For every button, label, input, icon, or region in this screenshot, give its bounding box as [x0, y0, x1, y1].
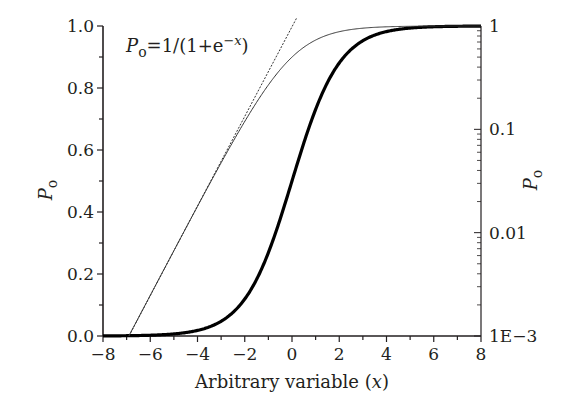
logistic-chart: −8−6−4−2024680.00.20.40.60.81.01E−30.010…: [0, 0, 567, 411]
x-axis-title: Arbitrary variable (x): [194, 371, 389, 392]
x-tick-label: 4: [381, 344, 392, 364]
y-right-tick-label: 0.1: [489, 119, 516, 139]
y-axis-title-right: Po: [520, 170, 545, 192]
y-right-tick-label: 1E−3: [489, 326, 537, 346]
y-left-tick-label: 0.2: [67, 264, 94, 284]
po-log-curve: [129, 26, 481, 336]
y-left-tick-label: 0.4: [67, 202, 94, 222]
asymptote-dotted-line: [129, 18, 297, 336]
y-left-tick-label: 0.0: [67, 326, 94, 346]
po-linear-curve: [103, 26, 481, 336]
formula-annotation: Po=1/(1+e−x): [125, 33, 249, 60]
x-tick-label: −2: [232, 344, 257, 364]
curves: [103, 18, 481, 336]
x-tick-label: 0: [287, 344, 298, 364]
labels: Po=1/(1+e−x) Arbitrary variable (x) Po P…: [35, 33, 545, 392]
x-tick-label: 8: [476, 344, 487, 364]
x-tick-label: −4: [185, 344, 210, 364]
x-tick-label: −8: [90, 344, 115, 364]
y-right-tick-label: 0.01: [489, 223, 527, 243]
y-left-tick-label: 0.6: [67, 140, 94, 160]
y-left-tick-label: 0.8: [67, 78, 94, 98]
axes: −8−6−4−2024680.00.20.40.60.81.01E−30.010…: [67, 16, 537, 364]
chart-container: −8−6−4−2024680.00.20.40.60.81.01E−30.010…: [0, 0, 567, 411]
x-tick-label: −6: [138, 344, 163, 364]
x-tick-label: 6: [428, 344, 439, 364]
y-axis-title-left: Po: [35, 180, 60, 202]
y-left-tick-label: 1.0: [67, 16, 94, 36]
x-tick-label: 2: [334, 344, 345, 364]
y-right-tick-label: 1: [489, 16, 500, 36]
